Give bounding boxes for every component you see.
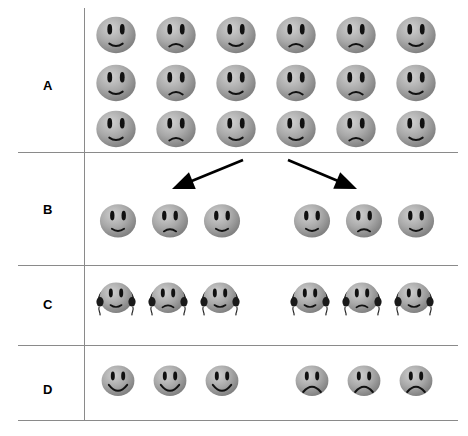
headphone-wire-icon-0 <box>345 307 346 316</box>
headphone-wire-icon-0 <box>397 307 398 316</box>
face-head <box>216 17 255 53</box>
face-eye-1 <box>316 211 320 221</box>
headphone-wire-icon-0 <box>151 307 152 316</box>
face-eye-1 <box>171 289 175 298</box>
face-c-1-slight-frown <box>148 277 188 317</box>
face-eye-1 <box>180 118 185 129</box>
arrow-head <box>172 172 196 189</box>
face-a-1-slight-frown <box>152 10 200 58</box>
face-eye-1 <box>173 372 177 381</box>
face-head <box>400 366 433 396</box>
face-eye-1 <box>240 118 245 129</box>
face-a-3-slight-frown <box>272 10 320 58</box>
face-eye-1 <box>223 289 227 298</box>
face-eye-1 <box>360 24 365 35</box>
face-head <box>348 366 381 396</box>
face-eye-1 <box>315 372 319 381</box>
face-eye-0 <box>303 289 307 298</box>
row-divider-2 <box>18 345 458 346</box>
face-d-4-sad <box>344 360 384 400</box>
row-label-d: D <box>18 382 78 397</box>
face-eye-0 <box>111 372 115 381</box>
headphone-earcup-icon-0 <box>342 297 349 307</box>
face-eye-0 <box>407 24 412 35</box>
face-eye-0 <box>356 211 360 221</box>
row-label-a: A <box>18 78 78 93</box>
face-eye-1 <box>420 24 425 35</box>
face-c-5-slight-smile <box>394 277 434 317</box>
face-head <box>398 283 431 313</box>
face-c-3-slight-smile <box>290 277 330 317</box>
face-eye-0 <box>407 72 412 83</box>
face-eye-0 <box>347 72 352 83</box>
face-eye-1 <box>420 118 425 129</box>
headphone-earcup-icon-0 <box>148 297 155 307</box>
face-head <box>100 204 136 237</box>
headphone-earcup-icon-1 <box>374 297 381 307</box>
face-eye-1 <box>226 211 230 221</box>
face-head <box>156 65 195 101</box>
headphone-wire-icon-0 <box>293 307 294 316</box>
face-d-1-happy <box>150 360 190 400</box>
face-eye-0 <box>227 72 232 83</box>
headphone-earcup-icon-1 <box>322 297 329 307</box>
face-head <box>204 204 240 237</box>
headphone-wire-icon-0 <box>99 307 100 316</box>
headphone-wire-icon-1 <box>184 307 185 316</box>
face-eye-0 <box>107 72 112 83</box>
face-head <box>156 17 195 53</box>
face-a-4-slight-frown <box>332 10 380 58</box>
row-divider-3 <box>18 420 458 421</box>
face-a-16-slight-frown <box>332 104 380 152</box>
face-b-0-slight-smile <box>96 198 140 242</box>
face-eye-1 <box>121 372 125 381</box>
face-a-9-slight-frown <box>272 58 320 106</box>
face-eye-1 <box>122 211 126 221</box>
face-eye-0 <box>227 118 232 129</box>
face-a-7-slight-frown <box>152 58 200 106</box>
face-eye-1 <box>367 372 371 381</box>
headphone-earcup-icon-0 <box>290 297 297 307</box>
headphone-wire-icon-1 <box>378 307 379 316</box>
figure-panel: ABCD <box>0 0 468 436</box>
face-eye-0 <box>347 118 352 129</box>
face-eye-0 <box>167 118 172 129</box>
face-eye-0 <box>167 24 172 35</box>
face-head <box>346 283 379 313</box>
face-a-0-slight-smile <box>92 10 140 58</box>
face-head <box>294 204 330 237</box>
face-head <box>396 65 435 101</box>
face-b-2-slight-smile <box>200 198 244 242</box>
face-head <box>336 111 375 147</box>
face-b-4-slight-frown <box>342 198 386 242</box>
face-a-2-slight-smile <box>212 10 260 58</box>
face-eye-0 <box>408 211 412 221</box>
face-a-14-slight-smile <box>212 104 260 152</box>
face-a-13-slight-frown <box>152 104 200 152</box>
headphone-wire-icon-1 <box>132 307 133 316</box>
face-eye-0 <box>161 289 165 298</box>
face-eye-0 <box>163 372 167 381</box>
face-head <box>276 111 315 147</box>
face-eye-1 <box>313 289 317 298</box>
headphone-earcup-icon-1 <box>180 297 187 307</box>
face-eye-1 <box>119 289 123 298</box>
face-head <box>296 366 329 396</box>
face-eye-1 <box>420 211 424 221</box>
arrow-to-left-group <box>172 160 243 189</box>
face-eye-0 <box>110 211 114 221</box>
face-a-6-slight-smile <box>92 58 140 106</box>
face-head <box>156 111 195 147</box>
face-eye-1 <box>300 24 305 35</box>
face-eye-1 <box>360 118 365 129</box>
row-divider-0 <box>18 152 458 153</box>
face-eye-0 <box>107 118 112 129</box>
face-head <box>396 17 435 53</box>
face-eye-0 <box>304 211 308 221</box>
face-eye-1 <box>365 289 369 298</box>
face-a-12-slight-smile <box>92 104 140 152</box>
face-eye-0 <box>109 289 113 298</box>
face-eye-1 <box>419 372 423 381</box>
face-d-2-happy <box>202 360 242 400</box>
face-head <box>96 65 135 101</box>
